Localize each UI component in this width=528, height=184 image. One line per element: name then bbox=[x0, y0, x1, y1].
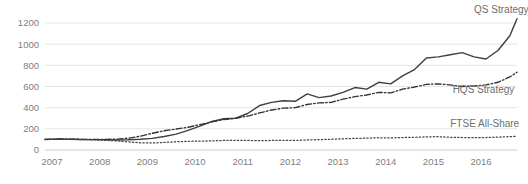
chart-canvas: 020040060080010001200 200720082009201020… bbox=[0, 0, 528, 184]
series-label-qs-strategy: QS Strategy bbox=[474, 4, 528, 15]
x-axis-tick-labels: 2007200820092010201120122013201420152016 bbox=[41, 156, 491, 167]
y-axis-tick-label: 1000 bbox=[18, 39, 39, 50]
data-series bbox=[45, 19, 517, 143]
y-axis-tick-label: 1200 bbox=[18, 17, 39, 28]
y-axis-tick-label: 200 bbox=[23, 123, 39, 134]
x-axis-tick-label: 2007 bbox=[41, 156, 62, 167]
y-axis-tick-label: 400 bbox=[23, 102, 39, 113]
y-axis-tick-labels: 020040060080010001200 bbox=[18, 17, 39, 155]
y-axis-tick-label: 0 bbox=[34, 144, 39, 155]
x-axis-tick-label: 2015 bbox=[423, 156, 444, 167]
series-line-hqs-strategy bbox=[45, 72, 517, 139]
gridlines bbox=[45, 23, 517, 150]
x-axis-tick-label: 2013 bbox=[327, 156, 348, 167]
x-axis-tick-label: 2014 bbox=[375, 156, 396, 167]
series-line-qs-strategy bbox=[45, 19, 517, 140]
line-chart: 020040060080010001200 200720082009201020… bbox=[0, 0, 528, 184]
x-axis-tick-label: 2011 bbox=[232, 156, 252, 167]
y-axis-tick-label: 600 bbox=[23, 81, 39, 92]
y-axis-tick-label: 800 bbox=[23, 60, 39, 71]
series-label-ftse-all-share: FTSE All-Share bbox=[450, 118, 519, 129]
x-axis-tick-label: 2016 bbox=[471, 156, 492, 167]
x-axis-tick-label: 2012 bbox=[280, 156, 301, 167]
x-axis-tick-label: 2009 bbox=[137, 156, 158, 167]
x-axis-tick-label: 2010 bbox=[184, 156, 205, 167]
series-label-hqs-strategy: HQS Strategy bbox=[453, 84, 515, 95]
x-axis-tick-label: 2008 bbox=[89, 156, 110, 167]
